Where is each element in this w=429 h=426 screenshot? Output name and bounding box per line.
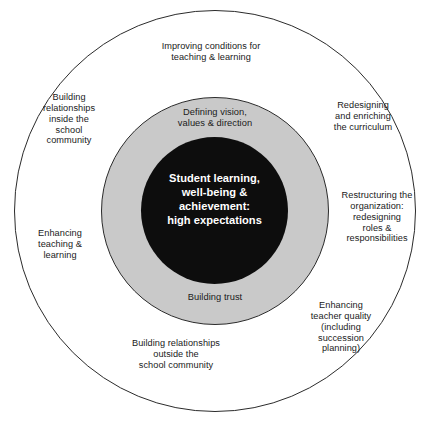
concentric-circles-diagram: Student learning, well-being & achieveme… [0, 0, 429, 426]
outer-ring-label-redesigning-curriculum: Redesigning and enriching the curriculum [310, 100, 416, 133]
outer-ring-label-restructuring-organization: Restructuring the organization: redesign… [328, 190, 426, 244]
outer-ring-label-improving-conditions: Improving conditions for teaching & lear… [118, 41, 304, 63]
core-label: Student learning, well-being & achieveme… [141, 172, 288, 228]
outer-ring-label-relationships-inside: Building relationships inside the school… [24, 92, 114, 146]
outer-ring-label-enhancing-teacher-quality: Enhancing teacher quality (including suc… [294, 300, 388, 354]
outer-ring-label-enhancing-teaching-learning: Enhancing teaching & learning [14, 228, 106, 261]
outer-ring-label-relationships-outside: Building relationships outside the schoo… [94, 338, 258, 371]
middle-ring-label-trust: Building trust [155, 292, 275, 303]
middle-ring-label-vision: Defining vision, values & direction [140, 107, 290, 129]
